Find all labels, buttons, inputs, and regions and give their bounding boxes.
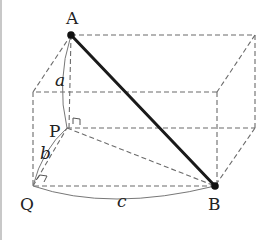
diagonal-ab	[71, 35, 215, 186]
label-edge-c: c	[117, 191, 127, 211]
edge-top-left	[33, 35, 71, 92]
right-angle-marker-p	[73, 118, 80, 125]
label-edge-b: b	[40, 143, 51, 163]
edge-vertical-ap	[69, 35, 71, 128]
edge-top-right	[217, 35, 255, 92]
segment-pb	[67, 128, 215, 186]
edge-bottom-right	[215, 128, 255, 186]
point-b	[211, 182, 219, 190]
label-edge-a: a	[55, 70, 65, 90]
label-a-point: A	[65, 8, 79, 28]
right-angle-marker-q	[36, 175, 47, 182]
label-q-point: Q	[20, 194, 34, 214]
point-a	[67, 31, 75, 39]
label-p-point: P	[49, 121, 60, 141]
label-b-point: B	[208, 194, 221, 214]
box-diagram: A B P Q a b c	[0, 0, 273, 240]
